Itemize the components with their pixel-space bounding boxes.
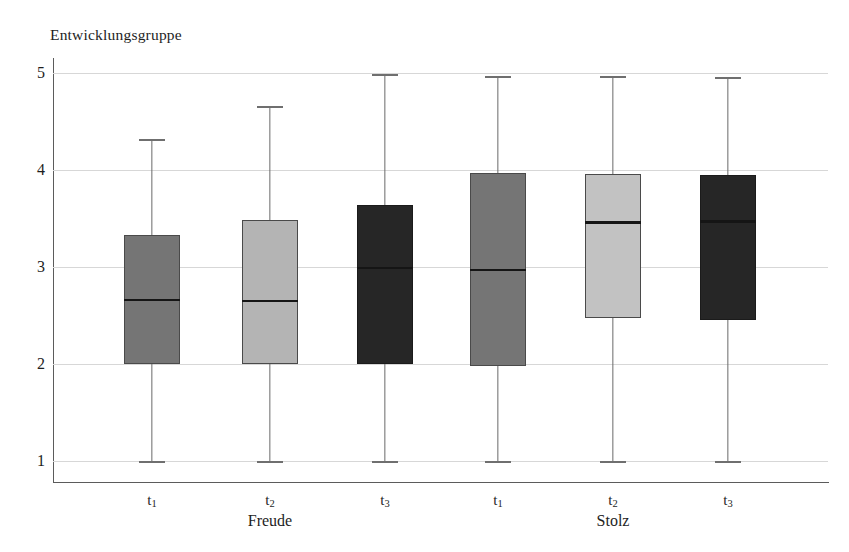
- median-line: [700, 220, 756, 223]
- whisker-cap-lower: [372, 461, 398, 463]
- median-line: [242, 300, 298, 303]
- box-iqr: [700, 175, 756, 321]
- boxplot-freude-t1[interactable]: [124, 58, 180, 482]
- whisker-cap-lower: [715, 461, 741, 463]
- whisker-cap-upper: [485, 76, 511, 78]
- y-tick-label-4: 4: [5, 161, 45, 179]
- whisker-lower: [151, 364, 152, 461]
- median-line: [470, 269, 526, 272]
- whisker-cap-lower: [485, 461, 511, 463]
- median-line: [124, 299, 180, 302]
- x-tick-label-stolz-t1: t1: [493, 492, 502, 509]
- whisker-upper: [727, 77, 728, 175]
- boxplot-freude-t3[interactable]: [357, 58, 413, 482]
- y-tick-label-1: 1: [5, 452, 45, 470]
- y-tick-label-5: 5: [5, 64, 45, 82]
- y-tick-label-3: 3: [5, 258, 45, 276]
- x-tick-label-freude-t1: t1: [147, 492, 156, 509]
- boxplot-chart: Entwicklungsgruppe 12345 t1t2t3t1t2t3Fre…: [0, 0, 849, 552]
- whisker-lower: [269, 364, 270, 461]
- whisker-cap-upper: [600, 76, 626, 78]
- box-iqr: [357, 205, 413, 364]
- whisker-upper: [384, 74, 385, 205]
- whisker-lower: [497, 366, 498, 461]
- box-iqr: [242, 220, 298, 364]
- y-tick-label-2: 2: [5, 355, 45, 373]
- y-axis-tick-labels: 12345: [0, 0, 45, 552]
- whisker-cap-upper: [372, 74, 398, 76]
- plot-area: [53, 58, 828, 482]
- whisker-cap-lower: [257, 461, 283, 463]
- whisker-upper: [269, 106, 270, 220]
- median-line: [357, 267, 413, 270]
- x-tick-label-stolz-t3: t3: [723, 492, 732, 509]
- x-tick-label-freude-t3: t3: [380, 492, 389, 509]
- whisker-lower: [612, 318, 613, 461]
- whisker-cap-lower: [139, 461, 165, 463]
- x-tick-label-freude-t2: t2: [265, 492, 274, 509]
- whisker-cap-upper: [257, 106, 283, 108]
- y-axis-title: Entwicklungsgruppe: [50, 26, 182, 44]
- whisker-upper: [497, 76, 498, 173]
- boxplot-stolz-t3[interactable]: [700, 58, 756, 482]
- whisker-lower: [727, 320, 728, 461]
- boxplot-freude-t2[interactable]: [242, 58, 298, 482]
- whisker-cap-lower: [600, 461, 626, 463]
- x-axis-line: [53, 482, 829, 483]
- whisker-upper: [151, 139, 152, 235]
- group-label-stolz: Stolz: [597, 512, 630, 530]
- group-label-freude: Freude: [248, 512, 292, 530]
- median-line: [585, 221, 641, 224]
- boxplot-stolz-t1[interactable]: [470, 58, 526, 482]
- boxplot-stolz-t2[interactable]: [585, 58, 641, 482]
- whisker-upper: [612, 76, 613, 174]
- whisker-lower: [384, 364, 385, 461]
- whisker-cap-upper: [139, 139, 165, 141]
- box-iqr: [585, 174, 641, 319]
- whisker-cap-upper: [715, 77, 741, 79]
- x-tick-label-stolz-t2: t2: [608, 492, 617, 509]
